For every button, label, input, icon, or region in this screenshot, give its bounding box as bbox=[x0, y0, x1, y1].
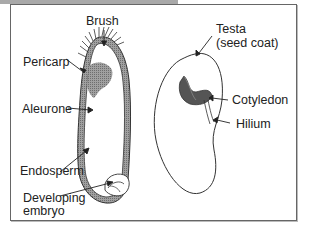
label-endosperm: Endosperm bbox=[20, 165, 84, 178]
label-hilium: Hilium bbox=[236, 118, 271, 131]
label-aleurone: Aleurone bbox=[22, 103, 72, 116]
bean-seed bbox=[154, 53, 222, 193]
label-cotyledon: Cotyledon bbox=[232, 94, 288, 107]
label-brush: Brush bbox=[86, 15, 119, 28]
testa bbox=[154, 53, 222, 193]
label-seed-coat: (seed coat) bbox=[216, 37, 279, 50]
label-testa: Testa bbox=[216, 23, 246, 36]
grain-seed bbox=[78, 27, 131, 203]
label-embryo: embryo bbox=[23, 205, 65, 218]
label-pericarp: Pericarp bbox=[23, 56, 70, 69]
